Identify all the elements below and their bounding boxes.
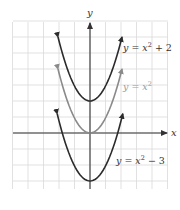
x-axis-label: x [171, 127, 177, 138]
label-y-x2: y = x2 [122, 80, 152, 92]
label-y-x2-plus-2: y = x2 + 2 [122, 41, 172, 53]
graph: x y y = x2 + 2 y = x2 y = x2 − 3 [0, 0, 180, 210]
label-y-x2-minus-3: y = x2 − 3 [115, 154, 165, 166]
y-axis-label: y [86, 7, 93, 18]
